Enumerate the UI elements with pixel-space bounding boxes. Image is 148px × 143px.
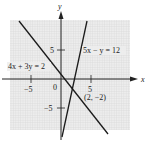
x-tick-label-neg5: −5 xyxy=(24,85,33,94)
y-axis-label: y xyxy=(57,2,62,11)
grid-lines xyxy=(10,20,130,130)
equation-label-line1: 4x + 3y = 2 xyxy=(8,62,45,71)
y-tick-label-5: 5 xyxy=(50,46,54,55)
x-axis-arrow-icon xyxy=(130,77,138,82)
x-axis-label: x xyxy=(140,75,145,84)
origin-label: 0 xyxy=(53,83,57,92)
y-tick-label-neg5: −5 xyxy=(44,104,53,113)
equation-label-line2: 5x − y = 12 xyxy=(83,46,120,55)
coordinate-graph: y x 0 −5 5 5 −5 4x + 3y = 2 5x − y = 12 … xyxy=(0,0,148,143)
y-axis-arrow-icon xyxy=(59,11,64,19)
intersection-label: (2, −2) xyxy=(84,93,106,102)
